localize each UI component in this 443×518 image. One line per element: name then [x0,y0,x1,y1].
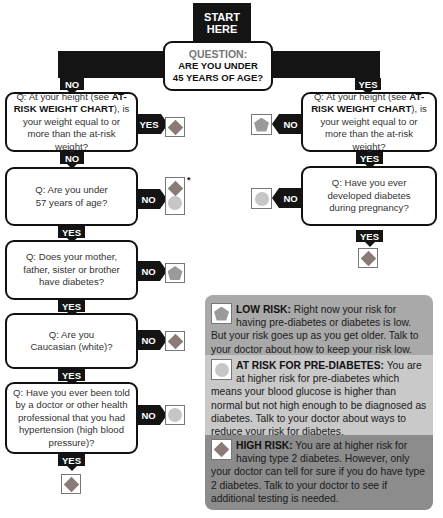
arrow-label: NO [141,266,155,277]
result-high-risk [165,117,185,137]
pentagon-icon [214,307,229,321]
no-arrow: NO [60,152,84,164]
left-question-weight: Q: At your height (see AT-RISK WEIGHT CH… [5,92,138,152]
result-pre-diabetes [165,405,185,425]
footnote-asterisk: * [187,175,191,185]
circle-icon [255,192,269,206]
yes-arrow: YES [58,226,85,238]
yes-arrow: YES [58,369,85,381]
here-label: HERE [207,23,238,35]
no-arrow: NO [137,330,160,350]
diamond-icon [63,476,79,492]
arrow-label: YES [360,153,379,164]
left-question-hypertension: Q: Have you ever been told by a doctor o… [5,382,138,454]
root-question-line1: ARE YOU UNDER [178,60,258,72]
yes-arrow: YES [58,454,85,466]
arrow-label: NO [141,194,155,205]
diamond-icon [360,250,376,266]
right-question-pregnancy: Q: Have you ever developed diabetes duri… [301,166,437,226]
question-text: Q: At your height (see [314,91,409,102]
legend-high-risk: HIGH RISK: You are at higher risk for ha… [205,435,433,510]
risk-legend: LOW RISK: Right now your risk for having… [205,295,433,510]
circle-icon [168,196,182,210]
diamond-icon [167,333,183,349]
root-question-label: QUESTION: [189,49,247,61]
legend-pre-text: You are at higher risk for pre-diabetes … [211,360,426,437]
question-text: Q: Have you ever been told by a doctor o… [13,387,130,450]
diamond-icon [167,119,183,135]
right-question-weight: Q: At your height (see AT-RISK WEIGHT CH… [301,92,437,152]
question-text: Q: Does your mother, father, sister or b… [13,251,130,289]
arrow-label: YES [62,227,81,238]
legend-pre-title: AT RISK FOR PRE-DIABETES: [236,360,384,371]
no-arrow: NO [279,114,302,134]
diamond-icon [214,442,230,458]
yes-arrow: YES [58,300,85,312]
arrow-label: YES [62,370,81,381]
arrow-label: NO [283,193,297,204]
arrow-label: YES [62,455,81,466]
yes-arrow: YES [137,114,161,134]
legend-pre-diabetes: AT RISK FOR PRE-DIABETES: You are at hig… [205,355,433,435]
legend-high-title: HIGH RISK: [236,440,293,451]
arrow-label: YES [62,301,81,312]
legend-low-risk: LOW RISK: Right now your risk for having… [205,295,433,355]
branch-no-label: NO [65,79,79,90]
circle-icon [168,408,182,422]
arrow-label: YES [139,119,158,130]
result-low-risk [165,263,185,283]
circle-icon [215,363,229,377]
start-here-marker: START HERE [193,3,251,43]
arrow-label: YES [360,231,379,242]
pentagon-icon [168,266,183,280]
branch-yes-label: YES [358,79,377,90]
diamond-icon [167,180,183,196]
legend-low-title: LOW RISK: [236,304,291,315]
legend-pre-icon-box [211,359,232,380]
yes-arrow: YES [356,152,383,164]
arrow-label: NO [283,119,297,130]
yes-arrow: YES [356,230,383,242]
left-question-family: Q: Does your mother, father, sister or b… [5,240,138,300]
root-question-line2: 45 YEARS OF AGE? [173,72,263,84]
question-text: Q: Are you Caucasian (white)? [13,329,130,354]
result-high-or-pre-diabetes [165,177,185,215]
arrow-label: NO [65,153,79,164]
legend-high-icon-box [211,439,232,460]
result-pre-diabetes [251,188,272,209]
result-high-risk [61,474,81,494]
result-high-risk [358,248,378,268]
branch-yes-tab: YES [355,78,381,90]
question-text: Q: Are you under 57 years of age? [13,184,130,209]
left-question-age57: Q: Are you under 57 years of age? [5,167,138,226]
pentagon-icon [254,118,269,132]
result-low-risk [251,114,272,135]
arrow-label: NO [141,410,155,421]
legend-low-icon-box [211,303,232,324]
arrow-label: NO [141,335,155,346]
root-question-box: QUESTION: ARE YOU UNDER 45 YEARS OF AGE? [163,41,273,91]
start-label: START [204,11,240,23]
no-arrow: NO [279,188,302,208]
branch-no-tab: NO [60,78,84,90]
result-high-risk [165,331,185,351]
question-text: Q: Have you ever developed diabetes duri… [309,177,429,215]
no-arrow: NO [137,189,160,209]
question-text: Q: At your height (see [16,91,111,102]
left-question-caucasian: Q: Are you Caucasian (white)? [5,313,138,369]
no-arrow: NO [137,405,160,425]
no-arrow: NO [137,261,160,281]
